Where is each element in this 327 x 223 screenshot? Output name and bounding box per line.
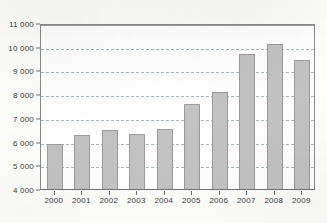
x-tick-label: 2003 xyxy=(127,196,146,205)
bar-2005 xyxy=(184,104,200,189)
y-tick-label: 7 000 xyxy=(13,114,34,123)
bar-2002 xyxy=(102,130,118,189)
x-axis: 2000200120022003200420052006200720082009 xyxy=(40,196,315,216)
x-tick-label: 2009 xyxy=(292,196,311,205)
bar-2001 xyxy=(74,135,90,189)
x-tick-mark xyxy=(136,191,137,195)
bar-2009 xyxy=(294,60,310,189)
y-tick-label: 4 000 xyxy=(13,186,34,195)
bar-slot xyxy=(151,25,179,189)
x-tick-mark xyxy=(301,191,302,195)
y-tick-label: 9 000 xyxy=(13,67,34,76)
x-tick-mark xyxy=(274,191,275,195)
bar-slot xyxy=(124,25,152,189)
bar-2003 xyxy=(129,134,145,189)
x-tick-label: 2005 xyxy=(182,196,201,205)
x-tick-mark xyxy=(109,191,110,195)
bar-chart-figure: 4 0005 0006 0007 0008 0009 00010 00011 0… xyxy=(0,0,327,223)
y-tick-label: 6 000 xyxy=(13,138,34,147)
bar-slot xyxy=(69,25,97,189)
bar-slot xyxy=(179,25,207,189)
x-tick-label: 2007 xyxy=(237,196,256,205)
y-tick-label: 5 000 xyxy=(13,162,34,171)
x-tick-mark xyxy=(81,191,82,195)
bar-slot xyxy=(96,25,124,189)
bar-slot xyxy=(41,25,69,189)
y-tick-label: 8 000 xyxy=(13,91,34,100)
y-axis: 4 0005 0006 0007 0008 0009 00010 00011 0… xyxy=(0,0,40,223)
bar-slot xyxy=(234,25,262,189)
x-tick-label: 2000 xyxy=(44,196,63,205)
y-tick-label: 11 000 xyxy=(9,20,34,29)
bar-2008 xyxy=(267,44,283,189)
x-tick-mark xyxy=(246,191,247,195)
bar-slot xyxy=(261,25,289,189)
bars-layer xyxy=(41,25,314,189)
x-tick-label: 2002 xyxy=(99,196,118,205)
x-tick-label: 2008 xyxy=(264,196,283,205)
bar-slot xyxy=(289,25,317,189)
bar-2004 xyxy=(157,129,173,189)
x-tick-mark xyxy=(164,191,165,195)
y-tick-label: 10 000 xyxy=(8,43,34,52)
bar-2007 xyxy=(239,54,255,189)
plot-area xyxy=(40,24,315,190)
x-tick-mark xyxy=(219,191,220,195)
x-tick-label: 2006 xyxy=(209,196,228,205)
x-tick-label: 2001 xyxy=(72,196,91,205)
bar-slot xyxy=(206,25,234,189)
bar-2006 xyxy=(212,92,228,189)
bar-2000 xyxy=(47,144,63,189)
x-tick-mark xyxy=(191,191,192,195)
x-tick-mark xyxy=(54,191,55,195)
x-tick-label: 2004 xyxy=(154,196,173,205)
